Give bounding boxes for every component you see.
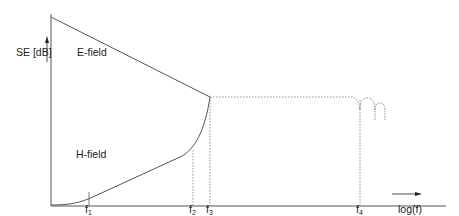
e-field-curve: [51, 17, 210, 97]
y-axis-label: SE [dB]: [16, 46, 52, 58]
h-field-curve: [51, 97, 210, 205]
f3-label: f3: [206, 203, 213, 216]
x-axis-label: log(f): [398, 203, 422, 215]
plateau-dashed-curve: [210, 97, 360, 110]
resonance-curve: [360, 98, 385, 120]
shielding-effectiveness-diagram: SE [dB] log(f) E-field H-field f1 f2 f3 …: [0, 0, 459, 216]
f2-label: f2: [189, 203, 196, 216]
f1-label: f1: [85, 203, 92, 216]
e-field-label: E-field: [77, 46, 107, 58]
h-field-label: H-field: [76, 148, 107, 160]
f4-label: f4: [356, 203, 363, 216]
x-axis-arrow-icon: [392, 192, 422, 196]
